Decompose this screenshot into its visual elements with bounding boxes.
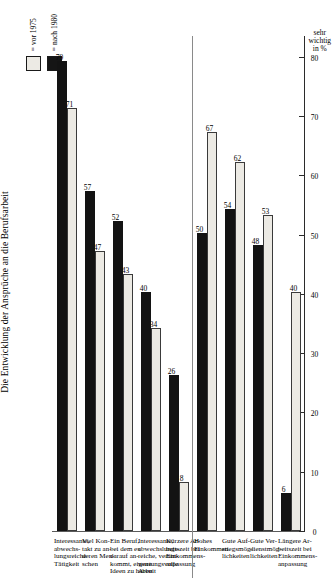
plot-area: 80706050403020100sehrwichtigin %7179Inte… (52, 36, 304, 532)
bar-vor-1975 (151, 328, 162, 531)
value-axis-tick-label: 30 (300, 350, 330, 359)
bar-nach-1980 (113, 221, 124, 531)
bar-nach-1980 (169, 375, 180, 531)
bar-value-label: 54 (217, 201, 237, 210)
chart-title: Die Entwicklung der Ansprüche an die Ber… (0, 0, 10, 584)
legend-swatch-light (26, 56, 41, 71)
bar-value-label: 48 (245, 236, 265, 245)
value-axis-line (304, 36, 305, 532)
chart-figure: Die Entwicklung der Ansprüche an die Ber… (0, 0, 334, 584)
bar-value-label: 40 (283, 284, 303, 293)
bar-nach-1980 (57, 61, 68, 531)
bar-vor-1975 (207, 132, 218, 531)
bar-nach-1980 (281, 493, 292, 531)
value-axis-tick-label: 80 (300, 54, 330, 63)
category-label: Längere Ar-beitszeit beiEinkommens-anpas… (278, 538, 334, 568)
bar-value-label: 26 (161, 366, 181, 375)
bar-nach-1980 (225, 209, 236, 531)
bar-nach-1980 (85, 191, 96, 531)
value-axis-title: sehrwichtigin % (309, 29, 332, 53)
bar-value-label: 53 (255, 206, 275, 215)
bar-value-label: 57 (77, 183, 97, 192)
bar-value-label: 62 (227, 153, 247, 162)
category-axis-line (52, 531, 304, 532)
bar-value-label: 6 (273, 485, 293, 494)
bar-vor-1975 (179, 482, 190, 531)
value-axis-tick-label: 0 (300, 528, 330, 537)
bar-nach-1980 (141, 292, 152, 531)
value-axis-tick-label: 20 (300, 409, 330, 418)
bar-vor-1975 (291, 292, 302, 531)
value-axis-tick-label: 60 (300, 172, 330, 181)
bar-value-label: 67 (199, 124, 219, 133)
bar-vor-1975 (235, 162, 246, 531)
legend-label-vor-1975: = vor 1975 (29, 18, 38, 51)
value-axis-tick-label: 40 (300, 291, 330, 300)
bar-nach-1980 (197, 233, 208, 531)
bar-vor-1975 (263, 215, 274, 531)
bar-value-label: 52 (105, 212, 125, 221)
bar-vor-1975 (123, 274, 134, 531)
bar-nach-1980 (253, 245, 264, 531)
group-divider (192, 36, 193, 578)
value-axis-tick-label: 50 (300, 231, 330, 240)
bar-value-label: 79 (49, 52, 69, 61)
bar-vor-1975 (67, 108, 78, 531)
bar-value-label: 40 (133, 284, 153, 293)
value-axis-tick-label: 70 (300, 113, 330, 122)
value-axis-tick-label: 10 (300, 468, 330, 477)
bar-vor-1975 (95, 251, 106, 531)
legend-item-vor-1975: = vor 1975 (26, 14, 41, 71)
